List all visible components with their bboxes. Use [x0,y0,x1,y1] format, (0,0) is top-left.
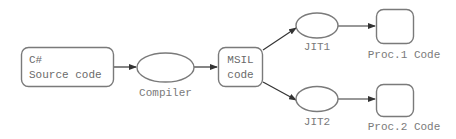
jit1-label: JIT1 [304,41,331,53]
edge-msil-to-jit2 [263,82,296,100]
node-source: C# Source code [22,48,114,87]
node-jit2: JIT2 [296,87,338,129]
jit1-ellipse [296,13,338,38]
node-msil: MSIL code [219,48,263,87]
proc2-box [377,85,414,117]
proc1-box [377,10,414,44]
compilation-flow-diagram: C# Source code Compiler MSIL code JIT1 J… [0,0,456,139]
proc1-label: Proc.1 Code [368,49,441,61]
node-proc2: Proc.2 Code [368,85,441,134]
jit2-label: JIT2 [304,116,330,128]
jit2-ellipse [296,87,338,112]
node-compiler: Compiler [137,53,194,99]
compiler-ellipse [137,53,194,82]
compiler-label: Compiler [139,87,192,99]
source-line1: C# [29,54,43,66]
node-jit1: JIT1 [296,13,338,53]
proc2-label: Proc.2 Code [368,121,441,133]
msil-line2: code [227,69,253,81]
edge-msil-to-jit1 [263,28,296,50]
node-proc1: Proc.1 Code [368,10,441,62]
source-line2: Source code [29,69,102,81]
msil-line1: MSIL [227,54,253,66]
